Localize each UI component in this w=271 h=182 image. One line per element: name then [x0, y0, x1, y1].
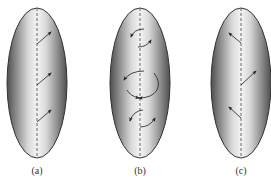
panel-a: (a)	[7, 8, 67, 177]
panel-label: (a)	[31, 165, 42, 177]
panel-label: (b)	[134, 165, 146, 177]
panel-label: (c)	[235, 165, 246, 177]
panel-c: (c)	[211, 8, 271, 177]
panel-b: (b)	[110, 8, 170, 177]
figure-canvas: (a)(b)(c)	[0, 0, 271, 182]
